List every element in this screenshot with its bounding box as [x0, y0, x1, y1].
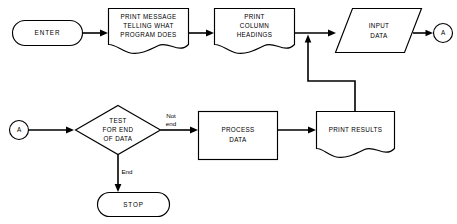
input-data-line1: INPUT: [369, 22, 390, 29]
not-end-label-line2: end: [166, 120, 177, 127]
test-line3: OF DATA: [104, 135, 133, 142]
edge-connector-a-to-test: [29, 127, 75, 134]
print-headings-line1: PRINT: [244, 13, 265, 20]
node-print-message[interactable]: PRINT MESSAGE TELLING WHAT PROGRAM DOES: [109, 9, 189, 54]
arrowhead-icon: [328, 30, 336, 37]
arrowhead-icon: [426, 30, 434, 36]
arrowhead-icon: [100, 30, 108, 37]
arrowhead-icon: [308, 127, 316, 134]
stop-label: STOP: [123, 201, 144, 208]
arrowhead-icon: [66, 127, 74, 134]
print-results-document-shape: [317, 112, 395, 158]
node-test-for-end-of-data[interactable]: TEST FOR END OF DATA: [76, 106, 161, 155]
node-input-data[interactable]: INPUT DATA: [336, 9, 422, 53]
node-enter[interactable]: ENTER: [13, 21, 83, 46]
node-connector-a-top[interactable]: A: [434, 24, 453, 43]
enter-label: ENTER: [35, 29, 61, 36]
print-headings-line2: COLUMN: [240, 22, 269, 29]
edge-input-data-to-connector-a: [413, 30, 433, 36]
end-label: End: [121, 168, 133, 175]
arrowhead-icon: [115, 184, 122, 192]
print-results-label: PRINT RESULTS: [329, 126, 383, 133]
edge-test-to-stop: [115, 155, 122, 193]
edge-print-message-to-print-headings: [189, 30, 215, 37]
test-line1: TEST: [109, 117, 127, 124]
print-headings-line3: HEADINGS: [237, 31, 273, 38]
node-stop[interactable]: STOP: [98, 193, 170, 217]
process-data-line2: DATA: [229, 136, 247, 143]
edge-label-end: End: [121, 168, 133, 175]
print-message-line1: PRINT MESSAGE: [120, 13, 176, 20]
not-end-label-line1: Not: [166, 112, 176, 119]
arrowhead-icon: [190, 127, 198, 134]
process-data-line1: PROCESS: [221, 126, 254, 133]
arrowhead-icon: [206, 30, 214, 37]
edge-print-headings-to-input-data: [295, 30, 337, 37]
node-connector-a-bottom[interactable]: A: [10, 121, 29, 140]
flowchart-diagram: ENTER PRINT MESSAGE TELLING WHAT PROGRAM…: [0, 0, 457, 224]
edge-test-to-process-data: [161, 127, 199, 134]
edge-enter-to-print-message: [83, 30, 109, 37]
node-print-results[interactable]: PRINT RESULTS: [317, 112, 395, 158]
input-data-line2: DATA: [370, 32, 388, 39]
test-line2: FOR END: [103, 126, 134, 133]
edge-label-not-end: Not end: [166, 112, 177, 127]
node-process-data[interactable]: PROCESS DATA: [199, 112, 278, 160]
flowchart-canvas: ENTER PRINT MESSAGE TELLING WHAT PROGRAM…: [0, 0, 457, 224]
node-print-headings[interactable]: PRINT COLUMN HEADINGS: [215, 9, 295, 54]
edge-process-data-to-print-results: [278, 127, 317, 134]
input-data-parallelogram-shape: [336, 9, 422, 53]
print-message-line3: PROGRAM DOES: [120, 31, 176, 38]
print-message-line2: TELLING WHAT: [123, 22, 173, 29]
arrowhead-icon: [305, 35, 312, 43]
